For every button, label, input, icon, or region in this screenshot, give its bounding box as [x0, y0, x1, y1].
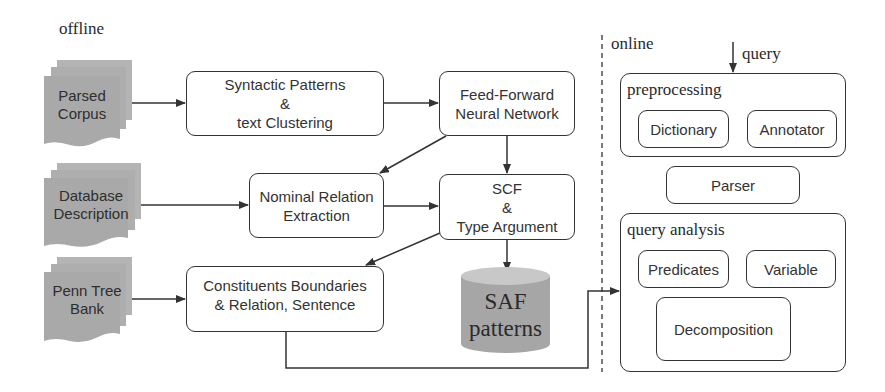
node-constituents-boundaries: Constituents Boundaries & Relation, Sent…: [186, 266, 384, 332]
node-feed-forward-nn: Feed-Forward Neural Network: [439, 71, 575, 136]
node-label: Parser: [711, 176, 755, 195]
node-label: Type Argument: [457, 217, 558, 236]
query-analysis-title: query analysis: [627, 220, 725, 240]
input-label: Description: [53, 205, 128, 223]
node-label: &: [280, 94, 290, 113]
node-dictionary: Dictionary: [638, 110, 729, 148]
node-label: text Clustering: [237, 113, 333, 132]
input-penn-tree-bank: Penn Tree Bank: [44, 275, 130, 325]
node-label: Syntactic Patterns: [225, 75, 346, 94]
input-label: Parsed: [58, 87, 106, 105]
db-label: patterns: [469, 315, 542, 342]
online-label: online: [611, 34, 654, 54]
input-label: Corpus: [58, 105, 106, 123]
node-label: Decomposition: [674, 320, 773, 339]
input-parsed-corpus: Parsed Corpus: [44, 80, 120, 130]
input-database-description: Database Description: [44, 180, 138, 230]
node-label: SCF: [492, 179, 522, 198]
node-label: Constituents Boundaries: [203, 276, 366, 295]
node-parser: Parser: [666, 166, 800, 204]
offline-label: offline: [59, 19, 104, 39]
node-label: Nominal Relation: [259, 187, 373, 206]
input-label: Bank: [70, 300, 104, 318]
query-label: query: [742, 44, 781, 64]
input-label: Penn Tree: [52, 282, 121, 300]
input-label: Database: [59, 187, 123, 205]
node-label: Neural Network: [455, 104, 558, 123]
node-label: &: [502, 198, 512, 217]
node-syntactic-patterns: Syntactic Patterns & text Clustering: [186, 71, 384, 136]
node-decomposition: Decomposition: [656, 297, 791, 361]
node-label: Extraction: [283, 206, 350, 225]
node-predicates: Predicates: [638, 250, 729, 288]
node-label: & Relation, Sentence: [215, 295, 356, 314]
node-label: Predicates: [648, 260, 719, 279]
preprocessing-title: preprocessing: [627, 80, 721, 100]
node-label: Dictionary: [650, 120, 717, 139]
node-annotator: Annotator: [747, 110, 837, 148]
pipeline-diagram: offline online query Parsed Corpus Datab…: [0, 0, 885, 392]
node-label: Feed-Forward: [460, 85, 554, 104]
node-scf-type-argument: SCF & Type Argument: [439, 174, 575, 240]
node-variable: Variable: [746, 250, 836, 288]
db-label: SAF: [484, 288, 526, 315]
node-label: Variable: [764, 260, 818, 279]
node-label: Annotator: [759, 120, 824, 139]
node-nominal-relation: Nominal Relation Extraction: [249, 173, 384, 238]
saf-patterns-db: SAF patterns: [461, 285, 550, 345]
